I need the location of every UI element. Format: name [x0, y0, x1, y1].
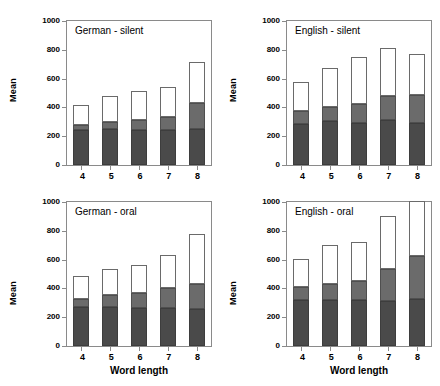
bar-segment-top	[409, 201, 425, 256]
x-axis-tick: 6	[139, 346, 140, 351]
x-axis-tick-label: 6	[132, 171, 148, 181]
bar-segment-middle	[322, 284, 338, 300]
bar-segment-bottom	[380, 301, 396, 346]
bar-segment-top	[73, 276, 89, 298]
bar-segment-bottom	[160, 130, 176, 165]
bar-segment-middle	[409, 256, 425, 299]
x-axis-tick-label: 5	[323, 171, 339, 181]
bar-segment-bottom	[351, 123, 367, 165]
y-axis-tick: 400	[62, 107, 67, 108]
bar-segment-top	[189, 62, 205, 102]
y-axis-tick-label: 600	[30, 74, 60, 83]
y-axis-tick-label: 1000	[250, 16, 280, 25]
bar-segment-top	[351, 57, 367, 104]
y-axis-tick-label: 800	[250, 226, 280, 235]
bar-6	[131, 21, 147, 165]
y-axis-tick: 800	[282, 50, 287, 51]
y-axis-tick-label: 0	[250, 341, 280, 350]
bar-7	[160, 202, 176, 346]
bar-segment-middle	[73, 299, 89, 307]
bar-segment-bottom	[409, 299, 425, 346]
y-axis-tick: 600	[62, 260, 67, 261]
bar-7	[380, 202, 396, 346]
x-axis-tick-label: 7	[381, 171, 397, 181]
bar-8	[409, 21, 425, 165]
bar-segment-bottom	[293, 300, 309, 346]
y-axis-tick-label: 600	[250, 255, 280, 264]
bar-segment-top	[409, 54, 425, 96]
bars-container	[67, 202, 211, 346]
x-axis-tick-label: 5	[323, 352, 339, 362]
y-axis-tick: 600	[62, 79, 67, 80]
y-axis-tick: 0	[62, 346, 67, 347]
y-axis-tick-label: 200	[250, 131, 280, 140]
bar-segment-middle	[189, 103, 205, 130]
bar-segment-middle	[380, 269, 396, 301]
bars-container	[287, 202, 431, 346]
bar-segment-bottom	[131, 308, 147, 346]
bar-segment-bottom	[73, 130, 89, 165]
y-axis-tick-label: 400	[250, 102, 280, 111]
x-axis-tick: 4	[81, 346, 82, 351]
bar-segment-top	[293, 259, 309, 287]
x-axis-tick: 4	[81, 165, 82, 170]
y-axis-tick-label: 0	[30, 160, 60, 169]
y-axis-tick: 0	[282, 346, 287, 347]
bar-segment-middle	[409, 95, 425, 123]
x-axis-tick: 7	[388, 165, 389, 170]
bar-segment-bottom	[102, 129, 118, 165]
x-axis-tick: 6	[359, 346, 360, 351]
bar-segment-top	[351, 242, 367, 281]
plot-area: German - silent 0200400600800100045678	[66, 20, 212, 166]
y-axis-tick: 1000	[282, 21, 287, 22]
bar-6	[351, 202, 367, 346]
x-axis-tick-label: 7	[161, 171, 177, 181]
y-axis-tick-label: 1000	[30, 197, 60, 206]
x-axis-tick-label: 6	[132, 352, 148, 362]
x-axis-tick: 8	[197, 165, 198, 170]
x-axis-tick-label: 7	[381, 352, 397, 362]
bar-segment-top	[160, 87, 176, 117]
bar-segment-bottom	[131, 130, 147, 165]
bar-4	[73, 21, 89, 165]
y-axis-tick: 0	[62, 165, 67, 166]
bar-8	[189, 21, 205, 165]
y-axis-tick: 1000	[282, 202, 287, 203]
y-axis-tick-label: 800	[30, 45, 60, 54]
bar-segment-middle	[102, 122, 118, 129]
bar-segment-middle	[380, 96, 396, 120]
y-axis-label: Mean	[228, 20, 242, 160]
bar-segment-top	[322, 68, 338, 107]
bar-segment-bottom	[322, 121, 338, 165]
bar-segment-middle	[293, 111, 309, 123]
y-axis-tick-label: 200	[30, 312, 60, 321]
y-axis-tick-label: 800	[250, 45, 280, 54]
y-axis-tick: 200	[62, 317, 67, 318]
bar-6	[131, 202, 147, 346]
y-axis-tick-label: 800	[30, 226, 60, 235]
x-axis-tick: 7	[388, 346, 389, 351]
bar-segment-bottom	[322, 300, 338, 346]
x-axis-label: Word length	[286, 365, 432, 376]
x-axis-tick-label: 8	[190, 352, 206, 362]
bar-segment-middle	[322, 107, 338, 121]
x-axis-tick-label: 4	[294, 352, 310, 362]
bar-7	[160, 21, 176, 165]
x-axis-label: Word length	[66, 365, 212, 376]
bar-segment-middle	[293, 287, 309, 300]
bar-segment-middle	[351, 104, 367, 123]
bar-segment-middle	[102, 295, 118, 307]
bars-container	[287, 21, 431, 165]
bar-segment-middle	[160, 288, 176, 308]
y-axis-tick: 400	[62, 288, 67, 289]
figure-root: Mean German - silent 0200400600800100045…	[0, 0, 440, 386]
bar-segment-top	[189, 234, 205, 284]
bar-segment-bottom	[189, 309, 205, 346]
plot-area: English - oral 0200400600800100045678	[286, 201, 432, 347]
bar-6	[351, 21, 367, 165]
panel-english-silent: Mean English - silent 020040060080010004…	[220, 0, 440, 193]
bar-segment-bottom	[160, 308, 176, 346]
x-axis-tick: 8	[417, 346, 418, 351]
x-axis-tick: 6	[359, 165, 360, 170]
bar-5	[102, 21, 118, 165]
